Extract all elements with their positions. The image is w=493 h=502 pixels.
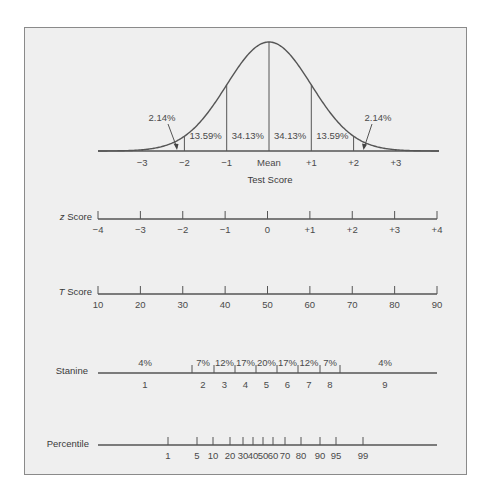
stanine-label: Stanine [56,365,88,376]
z-score-ticks: −4−3−2−10+1+2+3+4 [93,211,443,235]
tick-label: 60 [305,299,316,310]
percentile-tick-label: 80 [296,450,307,461]
percentile-tick-label: 90 [315,450,326,461]
curve-tick-label: +3 [390,157,401,168]
tick-label: 30 [177,299,188,310]
tick-label: +4 [432,224,443,235]
curve-tick-label: −1 [221,157,232,168]
percentile-ticks: 151020304050607080909599 [165,437,368,461]
area-label: 13.59% [189,130,222,141]
tick-label: −2 [177,224,188,235]
z-score-scale: z Score −4−3−2−10+1+2+3+4 [59,211,443,235]
tick-label: 20 [135,299,146,310]
tick-label: 80 [389,299,400,310]
percentile-tick-label: 5 [194,450,199,461]
tick-label: 50 [262,299,273,310]
percentile-tick-label: 30 [238,450,249,461]
stanine-percent: 7% [196,357,210,368]
t-score-ticks: 102030405060708090 [93,286,443,310]
percentile-tick-label: 10 [208,450,219,461]
stanine-percent: 20% [257,357,277,368]
area-label-left-tail: 2.14% [149,112,176,123]
percentile-scale: Percentile 151020304050607080909599 [47,437,437,461]
normal-curve-panel: 13.59%34.13%34.13%13.59% 2.14% 2.14% −3−… [98,42,439,185]
tick-label: 0 [265,224,270,235]
stanine-number: 9 [382,379,387,390]
tick-label: 90 [432,299,443,310]
area-label: 13.59% [316,130,349,141]
stanine-scale: Stanine 4%17%212%317%420%517%612%77%84%9 [56,357,437,390]
stanine-percent: 12% [215,357,235,368]
percentile-tick-label: 50 [258,450,269,461]
stanine-number: 6 [285,379,290,390]
t-score-scale: T Score 102030405060708090 [59,286,443,310]
area-label: 34.13% [232,130,265,141]
tick-label: −3 [135,224,146,235]
sd-lines [142,42,396,151]
curve-tick-label: +2 [348,157,359,168]
stanine-percent: 7% [323,357,337,368]
tick-label: +1 [304,224,315,235]
percentile-tick-label: 95 [331,450,342,461]
stanine-percent: 4% [138,357,152,368]
curve-tick-label: −2 [179,157,190,168]
stanine-number: 1 [142,379,147,390]
percentile-tick-label: 70 [280,450,291,461]
area-label: 34.13% [274,130,307,141]
tick-label: 40 [220,299,231,310]
stanine-number: 4 [243,379,248,390]
curve-xlabel: Test Score [248,174,293,185]
stanine-percent: 17% [236,357,256,368]
stanine-number: 3 [222,379,227,390]
stanine-number: 7 [306,379,311,390]
tick-label: +3 [389,224,400,235]
tick-label: 70 [347,299,358,310]
tick-label: −1 [220,224,231,235]
stanine-percent: 4% [378,357,392,368]
percentile-tick-label: 99 [358,450,369,461]
tick-label: −4 [93,224,104,235]
curve-tick-label: +1 [306,157,317,168]
curve-tick-label: Mean [257,157,281,168]
area-label-right-tail: 2.14% [365,112,392,123]
chart-svg: 13.59%34.13%34.13%13.59% 2.14% 2.14% −3−… [0,0,493,502]
t-score-label: T Score [59,286,92,297]
z-score-label: z Score [59,211,92,222]
percentile-tick-label: 60 [268,450,279,461]
percentile-label: Percentile [47,438,89,449]
curve-tick-labels: −3−2−1Mean+1+2+3 [137,157,402,168]
arrow-right-head-icon [362,144,367,151]
stanine-percent: 17% [278,357,298,368]
tick-label: 10 [93,299,104,310]
curve-tick-label: −3 [137,157,148,168]
stanine-number: 5 [264,379,269,390]
percentile-tick-label: 20 [225,450,236,461]
stanine-number: 8 [327,379,332,390]
arrow-left-head-icon [174,144,179,151]
stanine-number: 2 [200,379,205,390]
percentile-tick-label: 40 [248,450,259,461]
tick-label: +2 [347,224,358,235]
stanine-percent: 12% [299,357,319,368]
percentile-tick-label: 1 [165,450,170,461]
